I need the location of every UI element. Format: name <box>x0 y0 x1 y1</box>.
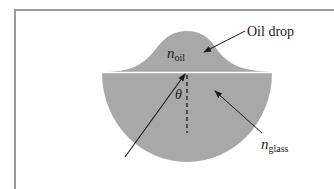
theta-label: θ <box>175 88 182 102</box>
n-glass-subscript: glass <box>269 143 289 154</box>
n-glass-label: nglass <box>261 136 289 154</box>
n-oil-label: noil <box>167 45 185 63</box>
n-oil-symbol: n <box>167 45 175 61</box>
n-glass-symbol: n <box>261 136 269 152</box>
oil-drop-text: Oil drop <box>247 24 294 39</box>
oil-drop-label: Oil drop <box>247 25 294 39</box>
n-oil-subscript: oil <box>175 52 186 63</box>
